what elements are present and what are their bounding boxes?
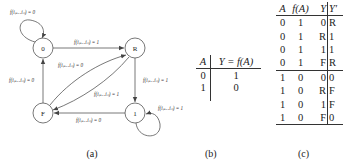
cell: 0 [289,70,312,84]
cell: 0 [328,70,344,84]
cell: 0 [276,16,289,30]
table-row: 1 0 R F [276,84,343,97]
cell: 1 [312,43,328,56]
svg-text:f(iₚ…iₙ) = 0: f(iₚ…iₙ) = 0 [58,62,83,69]
svg-text:f(iₚ…iₙ) = 1: f(iₚ…iₙ) = 1 [74,39,99,46]
edge-rise-to-one: f(iₚ…iₙ) = 1 [135,58,168,102]
cell: 1 [276,84,289,97]
truth-table-b: A Y = f(A) 0 1 1 0 [196,55,261,101]
svg-text:R: R [133,45,138,53]
cell: 1 [276,97,289,110]
svg-text:f(iₚ…iₙ) = 0: f(iₚ…iₙ) = 0 [9,77,34,84]
cell: 0 [312,70,328,84]
caption-a: (a) [86,148,97,160]
svg-text:0: 0 [41,45,45,53]
svg-text:f(iₚ…iₙ) = 0: f(iₚ…iₙ) = 0 [76,117,101,124]
svg-text:f(iₚ…iₙ) = 0: f(iₚ…iₙ) = 0 [10,9,35,16]
edge-fall-to-rise: f(iₚ…iₙ) = 0 [50,55,126,105]
cell: F [312,111,328,125]
table-row: 0 1 1 1 [276,43,343,56]
cell: 0 [276,56,289,70]
table-row: 1 0 [196,81,261,93]
header-y: Y [312,2,328,16]
cell: 1 [276,70,289,84]
cell: 0 [328,111,344,125]
header-a: A [276,2,289,16]
table-row: 1 0 0 0 [276,70,343,84]
cell: 0 [289,111,312,125]
node-one: 1 [125,103,145,123]
cell: F [328,97,344,110]
table-row: 1 0 F 0 [276,111,343,125]
svg-text:F: F [41,110,45,118]
svg-text:1: 1 [133,110,137,118]
svg-text:f(iₚ…iₙ) = 1: f(iₚ…iₙ) = 1 [143,77,168,84]
caption-b: (b) [205,148,217,159]
table-row: 1 0 1 F [276,97,343,110]
svg-text:f(iₚ…iₙ) = 1: f(iₚ…iₙ) = 1 [94,91,119,98]
cell: R [328,56,344,70]
cell: 0 [276,43,289,56]
cell: R [328,16,344,30]
table-row: 0 1 F R [276,56,343,70]
cell: 0 [276,29,289,42]
node-zero: 0 [33,38,53,58]
header-y-prime: Y′ [328,2,344,16]
cell: 0 [289,84,312,97]
cell: 0 [211,81,262,93]
cell: 1 [289,43,312,56]
cell: 1 [312,97,328,110]
cell: 1 [289,56,312,70]
cell: R [312,84,328,97]
cell: 1 [196,81,211,93]
table-header: A Y = f(A) [196,55,261,69]
header-fa: f(A) [289,2,312,16]
table-row: 0 1 [196,69,261,82]
cell: 1 [211,69,262,82]
edge-fall-to-zero: f(iₚ…iₙ) = 0 [9,59,43,103]
table-header: A f(A) Y Y′ [276,2,343,16]
svg-text:f(iₚ…iₙ) = 1: f(iₚ…iₙ) = 1 [158,105,183,112]
cell: R [312,29,328,42]
cell: 0 [312,16,328,30]
table-row-spacer [196,93,261,101]
cell: 0 [289,97,312,110]
header-y-eq-fa: Y = f(A) [211,55,262,69]
node-fall: F [33,103,53,123]
edge-zero-to-rise: f(iₚ…iₙ) = 1 [53,39,124,48]
header-a: A [196,55,211,69]
cell: 1 [289,16,312,30]
cell: 1 [328,29,344,42]
node-rise: R [125,38,145,58]
cell: 0 [196,69,211,82]
cell: F [328,84,344,97]
caption-c: (c) [298,148,309,159]
cell: 1 [328,43,344,56]
cell: 1 [289,29,312,42]
truth-table-c: A f(A) Y Y′ 0 1 0 R 0 1 R 1 0 1 1 [276,2,343,125]
cell: 1 [276,111,289,125]
edge-self-zero: f(iₚ…iₙ) = 0 [10,9,44,42]
table-row: 0 1 0 R [276,16,343,30]
table-row: 0 1 R 1 [276,29,343,42]
cell: F [312,56,328,70]
edge-one-to-fall: f(iₚ…iₙ) = 0 [54,113,125,124]
